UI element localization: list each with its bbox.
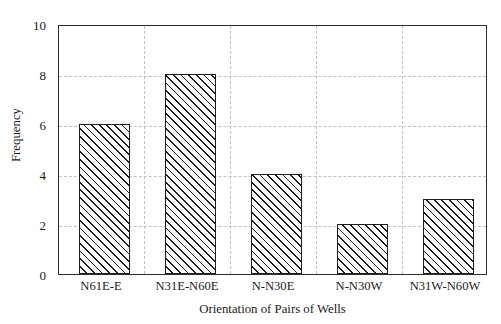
- gridline-vertical-2: [230, 26, 231, 274]
- x-tick-label-0: N61E-E: [58, 279, 144, 294]
- bar-n31e-n60e[interactable]: [165, 74, 216, 274]
- gridline-vertical-1: [144, 26, 145, 274]
- y-tick-label-4: 4: [40, 169, 47, 182]
- gridline-vertical-3: [316, 26, 317, 274]
- y-axis-ticks: 10 8 6 4 2 0: [0, 25, 52, 275]
- y-tick-label-8: 8: [40, 69, 47, 82]
- gridline-vertical-4: [402, 26, 403, 274]
- x-tick-label-2: N-N30E: [230, 279, 316, 294]
- bar-n61e-e[interactable]: [79, 124, 130, 274]
- x-tick-label-1: N31E-N60E: [144, 279, 230, 294]
- x-axis-ticks: N61E-E N31E-N60E N-N30E N-N30W N31W-N60W: [58, 279, 487, 299]
- gridline-horizontal-8: [59, 76, 486, 77]
- x-tick-label-4: N31W-N60W: [402, 279, 488, 294]
- x-tick-label-3: N-N30W: [316, 279, 402, 294]
- y-tick-label-6: 6: [40, 119, 47, 132]
- bar-n-n30w[interactable]: [337, 224, 388, 274]
- y-axis-title: Frequency: [9, 98, 23, 172]
- bar-n31w-n60w[interactable]: [423, 199, 474, 274]
- y-tick-label-2: 2: [40, 219, 47, 232]
- bar-chart-figure: 10 8 6 4 2 0 N61E-E N31E-N60E N-N30E N-N…: [0, 0, 501, 324]
- y-tick-label-10: 10: [33, 19, 46, 32]
- y-tick-label-0: 0: [40, 269, 47, 282]
- bar-n-n30e[interactable]: [251, 174, 302, 274]
- x-axis-title: Orientation of Pairs of Wells: [58, 301, 487, 317]
- plot-area: [58, 25, 487, 275]
